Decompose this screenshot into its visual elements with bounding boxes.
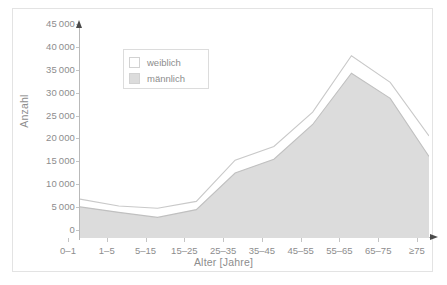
x-tick-label: 45–55 — [287, 245, 313, 256]
y-tick-label: 15 000 — [13, 156, 75, 166]
x-tick-mark — [184, 238, 185, 242]
x-axis-title: Alter [Jahre] — [0, 256, 447, 268]
y-tick-label: 45 000 — [13, 19, 75, 29]
legend-label-weiblich: weiblich — [147, 57, 181, 68]
legend-swatch-maennlich — [129, 73, 140, 84]
y-tick-label: 0 — [13, 225, 75, 235]
x-tick-label: 55–65 — [326, 245, 352, 256]
y-axis-arrow-icon — [76, 20, 82, 28]
x-tick-mark — [262, 238, 263, 242]
x-tick-label: ≥75 — [409, 245, 425, 256]
x-tick-mark — [68, 238, 69, 242]
x-tick-label: 0–1 — [60, 245, 76, 256]
x-tick-mark — [378, 238, 379, 242]
x-tick-mark — [301, 238, 302, 242]
x-tick-mark — [146, 238, 147, 242]
x-tick-mark — [107, 238, 108, 242]
y-tick-label: 5 000 — [13, 202, 75, 212]
y-tick-label: 20 000 — [13, 133, 75, 143]
x-axis-arrow-icon — [430, 234, 438, 240]
y-tick-label: 30 000 — [13, 88, 75, 98]
x-tick-mark — [223, 238, 224, 242]
chart-legend: weiblich männlich — [123, 49, 209, 89]
x-tick-label: 35–45 — [249, 245, 275, 256]
legend-item-weiblich: weiblich — [129, 54, 203, 70]
x-tick-mark — [339, 238, 340, 242]
x-tick-mark — [417, 238, 418, 242]
legend-swatch-weiblich — [129, 57, 140, 68]
chart-figure: Anzahl 05 00010 00015 00020 00025 00030 … — [0, 0, 447, 285]
x-tick-label: 1–5 — [99, 245, 115, 256]
x-tick-label: 15–25 — [171, 245, 197, 256]
x-tick-label: 25–35 — [210, 245, 236, 256]
x-tick-label: 5–15 — [135, 245, 156, 256]
y-tick-label: 40 000 — [13, 42, 75, 52]
figure-frame: Anzahl 05 00010 00015 00020 00025 00030 … — [12, 8, 433, 272]
legend-label-maennlich: männlich — [147, 73, 185, 84]
legend-item-maennlich: männlich — [129, 70, 203, 86]
y-tick-label: 25 000 — [13, 111, 75, 121]
y-tick-label: 10 000 — [13, 179, 75, 189]
x-tick-label: 65–75 — [365, 245, 391, 256]
y-tick-label: 35 000 — [13, 65, 75, 75]
